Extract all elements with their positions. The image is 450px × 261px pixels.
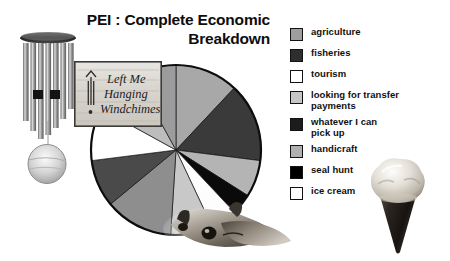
legend-swatch (290, 28, 303, 41)
legend-swatch (290, 49, 303, 62)
legend-label: seal hunt (311, 165, 353, 176)
seal-photo (163, 189, 295, 253)
page-title-line-1: PEI : Complete Economic (44, 10, 270, 29)
legend-item: fisheries (290, 48, 440, 62)
legend-item: handicraft (290, 144, 440, 158)
legend-label: tourism (311, 69, 346, 80)
poster-canvas: PEI : Complete Economic Breakdown (0, 0, 450, 261)
legend-swatch (290, 145, 303, 158)
legend-item: seal hunt (290, 165, 440, 179)
legend-item: looking for transfer payments (290, 90, 440, 111)
legend-item: ice cream (290, 186, 440, 200)
legend-label: whatever I can pick up (311, 117, 377, 138)
legend-item: tourism (290, 69, 440, 83)
legend-swatch (290, 70, 303, 83)
svg-text:Hanging: Hanging (103, 87, 148, 101)
legend-label: ice cream (311, 186, 355, 197)
legend-item: agriculture (290, 27, 440, 41)
legend-label: agriculture (311, 27, 361, 38)
legend: agriculturefisheriestourismlooking for t… (290, 27, 440, 207)
svg-text:Windchimes: Windchimes (100, 102, 161, 116)
legend-swatch (290, 91, 303, 104)
svg-text:Left Me: Left Me (106, 72, 146, 86)
legend-label: looking for transfer payments (311, 90, 399, 111)
legend-label: fisheries (311, 48, 351, 59)
legend-label: handicraft (311, 144, 357, 155)
legend-swatch (290, 166, 303, 179)
legend-swatch (290, 118, 303, 131)
brand-sign: Left Me Hanging Windchimes (74, 61, 162, 127)
legend-item: whatever I can pick up (290, 117, 440, 138)
legend-swatch (290, 187, 303, 200)
